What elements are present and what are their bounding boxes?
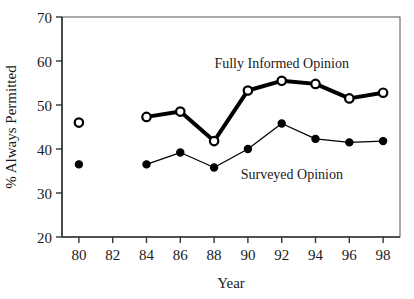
y-tick-label: 60	[37, 54, 52, 70]
data-point	[176, 107, 184, 115]
plot-frame	[62, 17, 400, 237]
x-axis-ticks: 80828486889092949698	[71, 237, 390, 263]
y-tick-label: 40	[37, 142, 52, 158]
data-point	[312, 135, 319, 142]
data-point	[244, 86, 252, 94]
data-point	[75, 161, 82, 168]
x-tick-label: 98	[376, 247, 391, 263]
data-point	[278, 77, 286, 85]
data-point	[177, 149, 184, 156]
chart-container: 203040506070 80828486889092949698 Fully …	[0, 0, 414, 299]
series-2	[75, 120, 386, 171]
x-tick-label: 82	[105, 247, 120, 263]
y-tick-label: 20	[37, 230, 52, 246]
x-tick-label: 92	[274, 247, 289, 263]
y-tick-label: 70	[37, 10, 52, 26]
plot-border	[62, 17, 400, 237]
data-point	[380, 137, 387, 144]
data-point	[379, 88, 387, 96]
x-tick-label: 88	[207, 247, 222, 263]
annotation-layer: Fully Informed OpinionSurveyed Opinion	[214, 56, 349, 182]
series-layer	[75, 77, 388, 171]
x-tick-label: 90	[240, 247, 255, 263]
data-point	[143, 161, 150, 168]
data-point	[278, 120, 285, 127]
x-tick-label: 86	[173, 247, 189, 263]
y-axis-title: % Always Permitted	[3, 65, 19, 189]
y-tick-label: 50	[37, 98, 52, 114]
x-tick-label: 84	[139, 247, 155, 263]
data-point	[346, 139, 353, 146]
data-point	[211, 164, 218, 171]
x-axis-title: Year	[217, 275, 245, 291]
series-label-fully-informed: Fully Informed Opinion	[214, 56, 349, 71]
data-point	[75, 118, 83, 126]
x-tick-label: 80	[71, 247, 86, 263]
x-tick-label: 96	[342, 247, 358, 263]
data-point	[244, 145, 251, 152]
y-axis-ticks: 203040506070	[37, 10, 62, 246]
line-chart: 203040506070 80828486889092949698 Fully …	[0, 0, 414, 299]
data-point	[210, 137, 218, 145]
series-label-surveyed: Surveyed Opinion	[241, 167, 343, 182]
y-tick-label: 30	[37, 186, 52, 202]
data-point	[345, 94, 353, 102]
data-point	[142, 113, 150, 121]
series-1	[75, 77, 388, 146]
x-tick-label: 94	[308, 247, 324, 263]
data-point	[311, 80, 319, 88]
